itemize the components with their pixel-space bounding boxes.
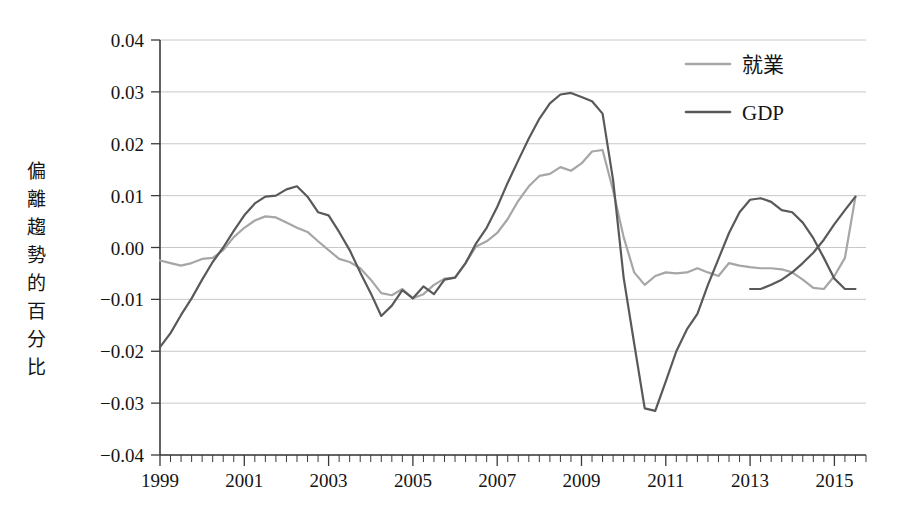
y-tick-label: −0.04 <box>100 445 144 466</box>
y-tick-label: −0.02 <box>100 341 144 362</box>
x-tick-label: 2005 <box>394 470 432 491</box>
chart-container: 0.040.030.020.010.00−0.01−0.02−0.03−0.04… <box>0 0 910 528</box>
y-tick-label: 0.00 <box>111 238 144 259</box>
x-tick-label: 2003 <box>310 470 348 491</box>
x-tick-label: 2013 <box>731 470 769 491</box>
legend-label-employment: 就業 <box>742 53 784 77</box>
x-tick-label: 2015 <box>815 470 853 491</box>
y-axis-title-char: 趨 <box>27 217 46 238</box>
x-tick-label: 2009 <box>562 470 600 491</box>
y-tick-label: −0.01 <box>100 289 144 310</box>
y-tick-label: 0.02 <box>111 134 144 155</box>
y-axis-title-char: 百 <box>27 301 46 322</box>
x-tick-label: 2001 <box>225 470 263 491</box>
x-tick-label: 2011 <box>647 470 684 491</box>
y-axis-title-char: 比 <box>27 357 46 378</box>
y-axis-title-char: 勢 <box>27 245 46 266</box>
y-tick-label: −0.03 <box>100 393 144 414</box>
x-tick-label: 1999 <box>141 470 179 491</box>
y-axis-title-char: 偏 <box>27 161 46 182</box>
y-tick-label: 0.04 <box>111 30 145 51</box>
x-axis-tick-labels: 199920012003200520072009201120132015 <box>141 470 853 491</box>
x-tick-label: 2007 <box>478 470 516 491</box>
y-axis-title-char: 離 <box>27 189 46 210</box>
legend-label-gdp: GDP <box>742 101 784 125</box>
y-axis-title-char: 分 <box>27 329 46 350</box>
line-chart: 0.040.030.020.010.00−0.01−0.02−0.03−0.04… <box>0 0 910 528</box>
y-tick-label: 0.03 <box>111 82 144 103</box>
y-axis-title-char: 的 <box>27 273 46 294</box>
y-tick-label: 0.01 <box>111 186 144 207</box>
